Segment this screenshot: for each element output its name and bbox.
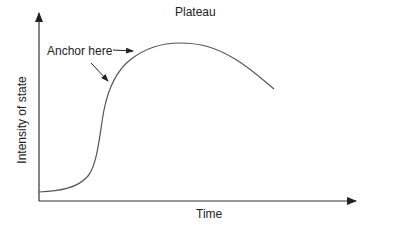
anchor-diagonal-arrow [91,63,108,81]
intensity-curve [39,43,274,192]
diagram-canvas [0,0,395,230]
anchor-annotation: Anchor here [47,45,112,57]
plateau-annotation: Plateau [175,6,216,18]
x-axis-label: Time [196,208,222,220]
y-axis-label: Intensity of state [16,76,28,163]
anchor-horizontal-arrow [113,50,133,51]
